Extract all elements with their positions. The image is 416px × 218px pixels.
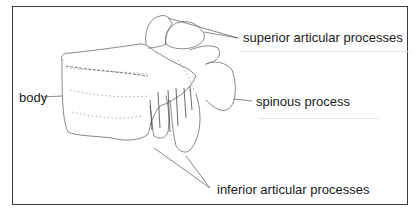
scan-artifact-rule: [240, 51, 410, 52]
leader-spinous: [234, 99, 252, 101]
superior-process-right: [166, 22, 205, 49]
label-spinous-process: spinous process: [256, 95, 350, 108]
scan-artifact-rule: [258, 118, 378, 119]
leader-inferior-2: [186, 156, 210, 188]
spinous-process-outline: [206, 62, 235, 111]
label-superior-articular-processes: superior articular processes: [243, 31, 403, 44]
leader-superior-1: [168, 18, 238, 38]
label-body: body: [19, 91, 47, 104]
superior-process-left: [146, 15, 172, 48]
lamina-outline: [190, 46, 220, 64]
leader-inferior-1: [154, 148, 210, 188]
label-inferior-articular-processes: inferior articular processes: [217, 183, 369, 196]
